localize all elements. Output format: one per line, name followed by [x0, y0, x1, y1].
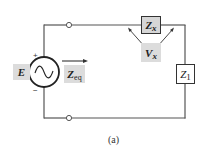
vx-sub: x — [152, 51, 157, 61]
z1-sub: 1 — [186, 72, 191, 82]
source-e-label: E — [13, 64, 30, 80]
vx-label: Vx — [141, 43, 161, 62]
zeq-label: Zeq — [64, 65, 85, 83]
zeq-main: Z — [67, 68, 74, 80]
figure-caption: (a) — [108, 134, 119, 145]
source-minus-sign: − — [33, 86, 38, 95]
z1-impedance-box: Z1 — [176, 64, 195, 84]
zx-sub: x — [152, 23, 157, 33]
zx-impedance-box: Zx — [141, 16, 161, 34]
source-plus-sign: + — [33, 51, 38, 60]
zeq-sub: eq — [74, 73, 82, 82]
source-e-text: E — [18, 66, 25, 78]
